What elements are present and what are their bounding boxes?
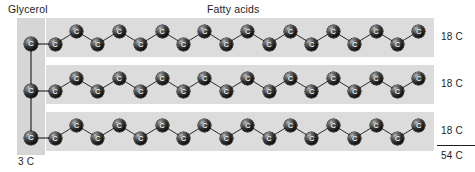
carbon-atom-chain-3-16: C [370, 119, 383, 132]
carbon-count-chain-3: 18 C [441, 125, 463, 136]
fatty-acid-band-2 [46, 65, 434, 104]
carbon-atom-chain-1-18: C [412, 25, 425, 38]
carbon-count-chain-1: 18 C [441, 31, 463, 42]
carbon-atom-chain-1-11: C [263, 38, 276, 51]
carbon-atom-chain-3-10: C [241, 119, 254, 132]
glycerol-heading: Glycerol [8, 3, 48, 15]
carbon-atom-chain-1-9: C [220, 38, 233, 51]
carbon-atom-chain-3-13: C [305, 132, 318, 145]
carbon-atom-chain-3-12: C [284, 119, 297, 132]
carbon-atom-chain-1-16: C [370, 25, 383, 38]
carbon-atom-chain-2-2: C [70, 72, 83, 85]
carbon-atom-chain-3-18: C [412, 119, 425, 132]
carbon-atom-chain-1-3: C [91, 38, 104, 51]
carbon-atom-chain-1-15: C [348, 38, 361, 51]
carbon-atom-chain-1-4: C [113, 25, 126, 38]
carbon-atom-chain-2-10: C [241, 72, 254, 85]
carbon-atom-glycerol-3: C [24, 131, 38, 145]
carbon-atom-chain-2-5: C [134, 85, 147, 98]
glycerol-carbon-count: 3 C [18, 156, 34, 167]
fatty-acid-band-1 [46, 18, 434, 57]
carbon-atom-chain-2-7: C [177, 85, 190, 98]
carbon-atom-chain-2-4: C [113, 72, 126, 85]
carbon-atom-glycerol-2: C [24, 84, 38, 98]
carbon-atom-chain-3-11: C [263, 132, 276, 145]
carbon-atom-chain-3-5: C [134, 132, 147, 145]
carbon-atom-chain-3-7: C [177, 132, 190, 145]
carbon-atom-chain-2-17: C [391, 85, 404, 98]
carbon-atom-chain-2-11: C [263, 85, 276, 98]
carbon-atom-chain-2-13: C [305, 85, 318, 98]
carbon-atom-chain-2-15: C [348, 85, 361, 98]
carbon-atom-chain-2-6: C [156, 72, 169, 85]
carbon-atom-chain-2-18: C [412, 72, 425, 85]
carbon-atom-chain-3-14: C [327, 119, 340, 132]
carbon-atom-chain-1-6: C [156, 25, 169, 38]
carbon-atom-chain-3-1: C [49, 132, 62, 145]
triglyceride-diagram: Glycerol Fatty acids CCCCCCCCCCCCCCCCCCC… [0, 0, 475, 172]
carbon-atom-chain-3-4: C [113, 119, 126, 132]
carbon-atom-chain-2-12: C [284, 72, 297, 85]
carbon-atom-chain-3-6: C [156, 119, 169, 132]
carbon-atom-chain-1-2: C [70, 25, 83, 38]
carbon-atom-chain-3-2: C [70, 119, 83, 132]
fatty-acids-heading: Fatty acids [207, 3, 259, 15]
carbon-atom-chain-2-9: C [220, 85, 233, 98]
fatty-acid-band-3 [46, 112, 434, 151]
carbon-atom-chain-1-13: C [305, 38, 318, 51]
sum-rule-line [437, 145, 475, 146]
carbon-atom-chain-1-1: C [49, 38, 62, 51]
carbon-atom-chain-1-5: C [134, 38, 147, 51]
carbon-atom-chain-1-10: C [241, 25, 254, 38]
carbon-atom-chain-1-8: C [198, 25, 211, 38]
carbon-atom-chain-3-8: C [198, 119, 211, 132]
carbon-atom-chain-3-3: C [91, 132, 104, 145]
carbon-atom-chain-3-9: C [220, 132, 233, 145]
carbon-atom-chain-2-14: C [327, 72, 340, 85]
carbon-atom-chain-3-17: C [391, 132, 404, 145]
carbon-atom-chain-1-12: C [284, 25, 297, 38]
carbon-atom-chain-3-15: C [348, 132, 361, 145]
carbon-atom-chain-1-14: C [327, 25, 340, 38]
carbon-count-chain-2: 18 C [441, 78, 463, 89]
carbon-atom-chain-2-16: C [370, 72, 383, 85]
carbon-atom-chain-2-8: C [198, 72, 211, 85]
carbon-atom-chain-1-7: C [177, 38, 190, 51]
carbon-atom-chain-1-17: C [391, 38, 404, 51]
carbon-atom-glycerol-1: C [24, 37, 38, 51]
carbon-count-total: 54 C [441, 150, 463, 161]
carbon-atom-chain-2-3: C [91, 85, 104, 98]
carbon-atom-chain-2-1: C [49, 85, 62, 98]
